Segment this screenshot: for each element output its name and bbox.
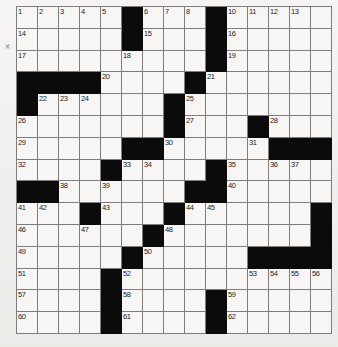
grid-letter-cell[interactable]: 6 — [143, 7, 164, 29]
grid-letter-cell[interactable] — [269, 29, 290, 51]
grid-letter-cell[interactable] — [269, 203, 290, 225]
grid-letter-cell[interactable] — [269, 51, 290, 73]
grid-letter-cell[interactable] — [248, 225, 269, 247]
grid-letter-cell[interactable]: 3 — [59, 7, 80, 29]
grid-letter-cell[interactable] — [164, 29, 185, 51]
grid-letter-cell[interactable]: 55 — [290, 269, 311, 291]
grid-letter-cell[interactable]: 43 — [101, 203, 122, 225]
grid-letter-cell[interactable]: 22 — [38, 94, 59, 116]
grid-letter-cell[interactable] — [206, 138, 227, 160]
grid-letter-cell[interactable] — [290, 29, 311, 51]
grid-letter-cell[interactable] — [311, 116, 332, 138]
grid-letter-cell[interactable] — [311, 7, 332, 29]
grid-letter-cell[interactable] — [101, 138, 122, 160]
grid-letter-cell[interactable]: 16 — [227, 29, 248, 51]
grid-letter-cell[interactable]: 18 — [122, 51, 143, 73]
grid-letter-cell[interactable] — [143, 290, 164, 312]
grid-letter-cell[interactable] — [290, 94, 311, 116]
grid-letter-cell[interactable] — [248, 51, 269, 73]
grid-letter-cell[interactable] — [101, 225, 122, 247]
grid-letter-cell[interactable] — [269, 72, 290, 94]
grid-letter-cell[interactable] — [38, 312, 59, 334]
grid-letter-cell[interactable] — [164, 312, 185, 334]
grid-letter-cell[interactable] — [248, 290, 269, 312]
grid-letter-cell[interactable] — [38, 160, 59, 182]
grid-letter-cell[interactable] — [185, 138, 206, 160]
grid-letter-cell[interactable]: 57 — [17, 290, 38, 312]
grid-letter-cell[interactable]: 47 — [80, 225, 101, 247]
grid-letter-cell[interactable] — [185, 290, 206, 312]
grid-letter-cell[interactable] — [80, 29, 101, 51]
grid-letter-cell[interactable] — [290, 72, 311, 94]
grid-letter-cell[interactable] — [311, 160, 332, 182]
grid-letter-cell[interactable] — [311, 312, 332, 334]
grid-letter-cell[interactable]: 19 — [227, 51, 248, 73]
grid-letter-cell[interactable]: 48 — [164, 225, 185, 247]
grid-letter-cell[interactable] — [227, 203, 248, 225]
grid-letter-cell[interactable] — [38, 116, 59, 138]
grid-letter-cell[interactable]: 26 — [17, 116, 38, 138]
grid-letter-cell[interactable] — [248, 181, 269, 203]
grid-letter-cell[interactable] — [269, 290, 290, 312]
grid-letter-cell[interactable] — [122, 94, 143, 116]
grid-letter-cell[interactable]: 59 — [227, 290, 248, 312]
grid-letter-cell[interactable]: 45 — [206, 203, 227, 225]
grid-letter-cell[interactable]: 14 — [17, 29, 38, 51]
grid-letter-cell[interactable]: 7 — [164, 7, 185, 29]
grid-letter-cell[interactable] — [143, 269, 164, 291]
grid-letter-cell[interactable] — [59, 269, 80, 291]
grid-letter-cell[interactable] — [164, 247, 185, 269]
grid-letter-cell[interactable] — [122, 225, 143, 247]
grid-letter-cell[interactable] — [164, 72, 185, 94]
grid-letter-cell[interactable]: 42 — [38, 203, 59, 225]
grid-letter-cell[interactable]: 25 — [185, 94, 206, 116]
grid-letter-cell[interactable]: 44 — [185, 203, 206, 225]
grid-letter-cell[interactable]: 1 — [17, 7, 38, 29]
grid-letter-cell[interactable] — [206, 247, 227, 269]
grid-letter-cell[interactable] — [206, 94, 227, 116]
grid-letter-cell[interactable] — [248, 94, 269, 116]
grid-letter-cell[interactable] — [80, 247, 101, 269]
grid-letter-cell[interactable] — [269, 94, 290, 116]
grid-letter-cell[interactable]: 60 — [17, 312, 38, 334]
grid-letter-cell[interactable] — [269, 225, 290, 247]
grid-letter-cell[interactable]: 52 — [122, 269, 143, 291]
grid-letter-cell[interactable] — [38, 29, 59, 51]
grid-letter-cell[interactable] — [248, 312, 269, 334]
grid-letter-cell[interactable] — [101, 247, 122, 269]
grid-letter-cell[interactable] — [164, 51, 185, 73]
grid-letter-cell[interactable] — [59, 51, 80, 73]
grid-letter-cell[interactable] — [143, 94, 164, 116]
grid-letter-cell[interactable] — [59, 138, 80, 160]
grid-letter-cell[interactable] — [80, 116, 101, 138]
grid-letter-cell[interactable] — [311, 51, 332, 73]
grid-letter-cell[interactable]: 12 — [269, 7, 290, 29]
grid-letter-cell[interactable] — [59, 312, 80, 334]
grid-letter-cell[interactable] — [101, 94, 122, 116]
grid-letter-cell[interactable]: 17 — [17, 51, 38, 73]
grid-letter-cell[interactable]: 27 — [185, 116, 206, 138]
grid-letter-cell[interactable]: 10 — [227, 7, 248, 29]
grid-letter-cell[interactable] — [59, 290, 80, 312]
grid-letter-cell[interactable] — [143, 51, 164, 73]
grid-letter-cell[interactable]: 62 — [227, 312, 248, 334]
grid-letter-cell[interactable] — [290, 116, 311, 138]
grid-letter-cell[interactable]: 4 — [80, 7, 101, 29]
grid-letter-cell[interactable] — [59, 247, 80, 269]
grid-letter-cell[interactable] — [206, 225, 227, 247]
grid-letter-cell[interactable]: 13 — [290, 7, 311, 29]
grid-letter-cell[interactable] — [311, 94, 332, 116]
grid-letter-cell[interactable] — [227, 116, 248, 138]
grid-letter-cell[interactable] — [227, 225, 248, 247]
grid-letter-cell[interactable] — [227, 269, 248, 291]
grid-letter-cell[interactable] — [185, 269, 206, 291]
grid-letter-cell[interactable] — [143, 72, 164, 94]
grid-letter-cell[interactable] — [164, 160, 185, 182]
grid-letter-cell[interactable]: 23 — [59, 94, 80, 116]
grid-letter-cell[interactable]: 56 — [311, 269, 332, 291]
grid-letter-cell[interactable]: 36 — [269, 160, 290, 182]
grid-letter-cell[interactable]: 54 — [269, 269, 290, 291]
grid-letter-cell[interactable] — [269, 312, 290, 334]
crossword-grid[interactable]: 1234567810111213141516171819202122232425… — [16, 6, 332, 334]
grid-letter-cell[interactable] — [185, 29, 206, 51]
